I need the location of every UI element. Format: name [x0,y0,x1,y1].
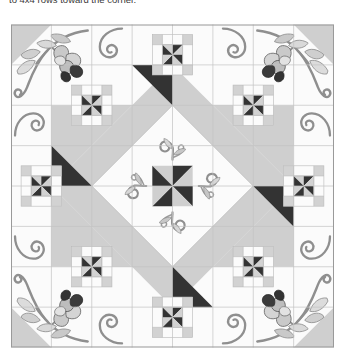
figure-caption: to 4x4 rows toward the corner. [9,0,136,5]
figure-root: to 4x4 rows toward the corner. [0,0,345,360]
quilt-svg [11,22,334,350]
quilt-block-diagram [11,22,334,350]
